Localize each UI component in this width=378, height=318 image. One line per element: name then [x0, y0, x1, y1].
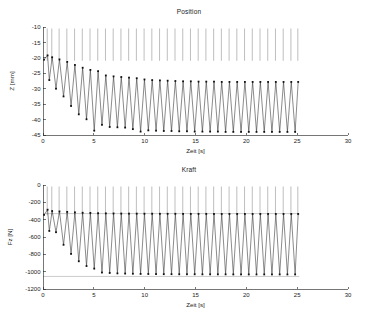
data-marker	[120, 76, 122, 78]
data-marker	[155, 273, 157, 275]
data-marker	[259, 81, 261, 83]
data-marker	[124, 273, 126, 275]
data-marker	[93, 268, 95, 270]
data-marker	[217, 131, 219, 133]
data-marker	[163, 273, 165, 275]
data-marker	[271, 274, 273, 276]
x-tick-label: 30	[345, 292, 352, 298]
data-marker	[117, 273, 119, 275]
data-marker	[155, 130, 157, 132]
data-marker	[275, 213, 277, 215]
data-marker	[190, 213, 192, 215]
data-marker	[167, 213, 169, 215]
data-marker	[271, 131, 273, 133]
data-marker	[236, 81, 238, 83]
x-tick-label: 25	[294, 138, 301, 144]
data-marker	[202, 131, 204, 133]
data-marker	[86, 118, 88, 120]
data-marker	[194, 273, 196, 275]
data-marker	[97, 70, 99, 72]
x-axis-label: Zeit [s]	[186, 301, 205, 308]
data-marker	[248, 131, 250, 133]
data-marker	[43, 214, 45, 216]
y-tick-label: 0	[37, 182, 41, 188]
data-marker	[136, 213, 138, 215]
data-marker	[263, 274, 265, 276]
data-marker	[86, 265, 88, 267]
data-marker	[147, 129, 149, 131]
data-marker	[89, 69, 91, 71]
data-marker	[47, 54, 49, 56]
data-marker	[48, 230, 50, 232]
data-marker	[136, 77, 138, 79]
x-tick-label: 15	[192, 292, 199, 298]
data-marker	[66, 61, 68, 63]
data-marker	[144, 79, 146, 81]
data-marker	[198, 213, 200, 215]
data-marker	[178, 273, 180, 275]
data-marker	[151, 79, 153, 81]
x-tick-label: 5	[92, 138, 96, 144]
y-tick-label: -600	[28, 234, 41, 240]
data-marker	[70, 253, 72, 255]
data-marker	[232, 274, 234, 276]
data-marker	[186, 273, 188, 275]
data-marker	[66, 211, 68, 213]
data-marker	[209, 273, 211, 275]
position-plot-panel: Position -10-15-20-25-30-35-40-450510152…	[0, 0, 378, 158]
position-plot-svg: -10-15-20-25-30-35-40-45051015202530Zeit…	[0, 0, 378, 160]
data-marker	[240, 274, 242, 276]
data-marker	[105, 75, 107, 77]
data-marker	[51, 56, 53, 58]
data-marker	[97, 212, 99, 214]
data-marker	[120, 213, 122, 215]
data-marker	[82, 212, 84, 214]
data-marker	[51, 210, 53, 212]
data-marker	[174, 80, 176, 82]
data-marker	[283, 213, 285, 215]
data-marker	[279, 274, 281, 276]
y-tick-label: -200	[28, 199, 41, 205]
data-marker	[48, 79, 50, 81]
data-marker	[259, 213, 261, 215]
data-marker	[55, 231, 57, 233]
data-marker	[82, 67, 84, 69]
data-marker	[113, 75, 115, 77]
data-marker	[252, 213, 254, 215]
data-trace	[44, 210, 298, 275]
data-marker	[244, 81, 246, 83]
data-marker	[140, 273, 142, 275]
data-marker	[205, 213, 207, 215]
data-marker	[232, 131, 234, 133]
data-marker	[147, 273, 149, 275]
data-marker	[213, 81, 215, 83]
data-marker	[59, 211, 61, 213]
data-marker	[294, 131, 296, 133]
data-marker	[109, 126, 111, 128]
data-marker	[182, 80, 184, 82]
data-marker	[290, 81, 292, 83]
x-tick-label: 30	[345, 138, 352, 144]
data-marker	[221, 81, 223, 83]
data-marker	[159, 213, 161, 215]
data-marker	[287, 274, 289, 276]
data-marker	[229, 81, 231, 83]
data-marker	[101, 272, 103, 274]
data-marker	[275, 81, 277, 83]
y-tick-label: -800	[28, 251, 41, 257]
data-marker	[256, 274, 258, 276]
x-tick-label: 0	[41, 292, 45, 298]
data-marker	[167, 80, 169, 82]
y-tick-label: -30	[32, 86, 41, 92]
data-marker	[47, 209, 49, 211]
data-marker	[63, 96, 65, 98]
data-marker	[105, 212, 107, 214]
data-marker	[248, 274, 250, 276]
y-tick-label: -40	[32, 117, 41, 123]
data-marker	[198, 81, 200, 83]
data-marker	[225, 131, 227, 133]
data-marker	[128, 213, 130, 215]
x-axis-label: Zeit [s]	[186, 147, 205, 154]
data-marker	[63, 244, 65, 246]
data-marker	[113, 213, 115, 215]
